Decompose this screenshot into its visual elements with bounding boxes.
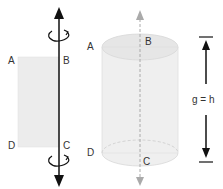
diagram-canvas	[0, 0, 223, 189]
rectangle-abcd	[18, 57, 59, 147]
label-rect-c: C	[63, 141, 70, 151]
label-cyl-d: D	[87, 148, 94, 158]
label-cyl-c: C	[143, 157, 150, 167]
label-rect-b: B	[63, 56, 70, 66]
arrow-up-icon	[54, 7, 64, 19]
label-rect-d: D	[8, 141, 15, 151]
arrow-down-icon	[54, 175, 64, 187]
height-label: g = h	[192, 95, 215, 105]
label-cyl-b: B	[145, 37, 152, 47]
label-cyl-a: A	[87, 42, 94, 52]
label-rect-a: A	[8, 56, 15, 66]
